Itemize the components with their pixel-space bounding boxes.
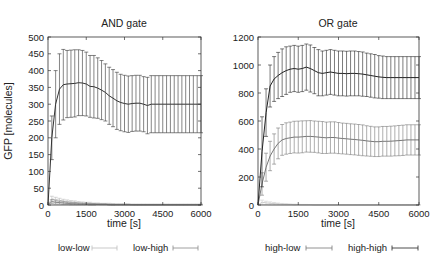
y-tick-label: 400 <box>238 144 254 155</box>
y-tick-label: 50 <box>33 183 44 194</box>
x-tick-label: 1500 <box>76 208 97 219</box>
series-high-low <box>258 121 421 205</box>
legend-swatch-low-high <box>173 246 198 251</box>
legend-swatch-high-high <box>392 246 418 251</box>
y-tick-label: 200 <box>238 172 254 183</box>
figure: AND gate 0150030004500600005010015020025… <box>0 0 441 267</box>
and-gate-title: AND gate <box>101 17 147 29</box>
legend-label-high-low: high-low <box>265 242 301 253</box>
and-gate-ylabel: GFP [molecules] <box>2 82 14 159</box>
y-tick-label: 400 <box>28 65 44 76</box>
y-tick-label: 0 <box>249 200 254 211</box>
y-tick-label: 0 <box>39 200 44 211</box>
legend-swatch-high-low <box>306 246 332 251</box>
y-tick-label: 100 <box>28 166 44 177</box>
y-tick-label: 350 <box>28 82 44 93</box>
y-tick-label: 1000 <box>233 60 254 71</box>
x-tick-label: 0 <box>255 208 260 219</box>
and-gate-panel: AND gate 0150030004500600005010015020025… <box>2 17 212 229</box>
legend-left: low-low low-high <box>58 242 198 253</box>
y-tick-label: 250 <box>28 116 44 127</box>
legend-right: high-low high-high <box>265 242 418 253</box>
and-gate-series <box>48 49 203 205</box>
y-tick-label: 1200 <box>233 32 254 43</box>
x-tick-label: 6000 <box>190 208 211 219</box>
y-tick-label: 200 <box>28 132 44 143</box>
x-tick-label: 0 <box>45 208 50 219</box>
legend-label-high-high: high-high <box>348 242 387 253</box>
legend-label-low-high: low-high <box>133 242 168 253</box>
y-tick-label: 150 <box>28 149 44 160</box>
or-gate-xlabel: time [s] <box>321 217 355 229</box>
x-tick-label: 1500 <box>288 208 309 219</box>
or-gate-title: OR gate <box>318 17 357 29</box>
y-tick-label: 600 <box>238 116 254 127</box>
y-tick-label: 500 <box>28 32 44 43</box>
y-tick-label: 800 <box>238 88 254 99</box>
x-tick-label: 4500 <box>368 208 389 219</box>
or-gate-series <box>258 44 421 205</box>
x-tick-label: 6000 <box>408 208 429 219</box>
legend-label-low-low: low-low <box>58 242 90 253</box>
legend-swatch-low-low <box>92 246 117 251</box>
y-tick-label: 450 <box>28 48 44 59</box>
series-and-output-high-high- <box>48 49 203 205</box>
and-gate-xlabel: time [s] <box>107 217 141 229</box>
y-tick-label: 300 <box>28 99 44 110</box>
x-tick-label: 4500 <box>152 208 173 219</box>
or-gate-panel: OR gate 01500300045006000020040060080010… <box>233 17 430 229</box>
series-low-low <box>258 200 421 205</box>
